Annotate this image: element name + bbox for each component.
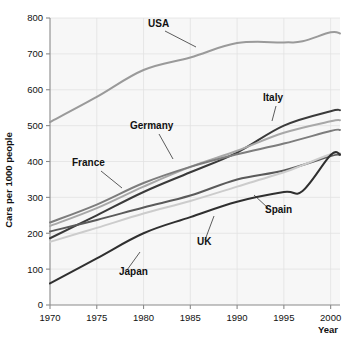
series-label-france: France (72, 157, 105, 168)
series-label-japan: Japan (119, 266, 148, 277)
y-tick-label: 600 (27, 84, 43, 95)
y-tick-label: 200 (27, 228, 43, 239)
series-label-italy: Italy (263, 92, 283, 103)
y-tick-labels: 0100200300400500600700800 (27, 12, 43, 310)
x-tick-label: 1995 (273, 312, 294, 323)
y-tick-label: 0 (38, 299, 43, 310)
x-tick-label: 1975 (86, 312, 107, 323)
chart-canvas: USAItalyGermanyFranceSpainUKJapan 010020… (0, 0, 347, 340)
series-label-usa: USA (148, 18, 169, 29)
x-axis-title: Year (318, 324, 338, 335)
y-tick-label: 100 (27, 264, 43, 275)
series-label-germany: Germany (130, 120, 174, 131)
x-tick-label: 1985 (180, 312, 201, 323)
x-tick-label: 2000 (320, 312, 341, 323)
series-label-spain: Spain (265, 204, 292, 215)
y-tick-label: 700 (27, 48, 43, 59)
x-tick-label: 1970 (39, 312, 60, 323)
cars-per-1000-people-line-chart: USAItalyGermanyFranceSpainUKJapan 010020… (0, 0, 347, 340)
y-tick-label: 800 (27, 12, 43, 23)
x-tick-label: 1990 (227, 312, 248, 323)
y-tick-label: 400 (27, 156, 43, 167)
y-tick-label: 300 (27, 192, 43, 203)
y-axis-title: Cars per 1000 people (3, 132, 14, 228)
y-tick-label: 500 (27, 120, 43, 131)
series-label-uk: UK (197, 236, 212, 247)
x-tick-label: 1980 (133, 312, 154, 323)
